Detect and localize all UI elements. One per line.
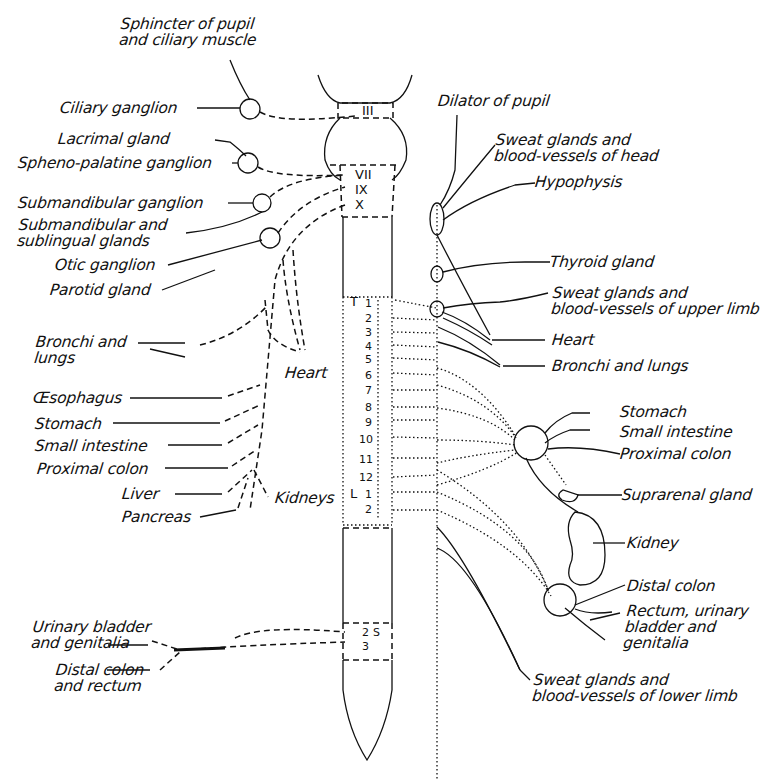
thoracic-segment-5: 5 bbox=[365, 354, 372, 365]
label-lacrimal-gland: Lacrimal gland bbox=[57, 131, 170, 147]
label-ciliary-ganglion: Ciliary ganglion bbox=[59, 100, 178, 116]
label-kidney: Kidney bbox=[626, 535, 679, 551]
label-sweat-glands-head: Sweat glands and blood-vessels of head bbox=[493, 132, 661, 164]
label-distal-colon-symp: Distal colon bbox=[626, 578, 716, 594]
lumbar-label: L bbox=[350, 488, 357, 499]
suprarenal-gland-shape bbox=[559, 490, 578, 502]
label-parotid-gland: Parotid gland bbox=[49, 282, 151, 298]
label-submandibular-glands: Submandibular and sublingual glands bbox=[16, 217, 168, 249]
label-sweat-glands-upper-limb: Sweat glands and blood-vessels of upper … bbox=[550, 285, 762, 317]
thoracic-segment-8: 8 bbox=[365, 402, 372, 413]
lumbar-segment-1: 1 bbox=[365, 489, 372, 500]
label-liver: Liver bbox=[121, 486, 160, 502]
thoracic-segment-6: 6 bbox=[365, 370, 372, 381]
label-proximal-colon-para: Proximal colon bbox=[36, 461, 149, 477]
label-small-intestine-symp: Small intestine bbox=[619, 424, 733, 440]
kidney-shape bbox=[568, 512, 605, 585]
sacral-label: S bbox=[373, 627, 380, 638]
thoracic-segment-7: 7 bbox=[365, 385, 372, 396]
ciliary-ganglion-node bbox=[240, 99, 260, 119]
label-small-intestine-para: Small intestine bbox=[34, 438, 148, 454]
sacral-segment-2: 2 bbox=[362, 627, 369, 638]
thoracic-segment-4: 4 bbox=[365, 341, 372, 352]
cranial-nerve-ix: IX bbox=[355, 184, 368, 195]
thoracic-segment-1: 1 bbox=[365, 298, 372, 309]
label-sweat-glands-lower-limb: Sweat glands and blood-vessels of lower … bbox=[531, 672, 740, 704]
thoracic-segment-9: 9 bbox=[365, 417, 372, 428]
otic-ganglion-node bbox=[260, 228, 280, 248]
coeliac-ganglion bbox=[514, 426, 548, 460]
cranial-nerve-vii: VII bbox=[355, 169, 372, 180]
autonomic-nervous-system-diagram: III VII IX X T 1 2 3 4 5 6 7 8 9 10 11 1… bbox=[0, 0, 783, 780]
label-otic-ganglion: Otic ganglion bbox=[54, 257, 156, 273]
inferior-mesenteric-ganglion bbox=[544, 584, 576, 616]
cranial-nerve-x: X bbox=[355, 199, 364, 210]
cranial-nerve-iii: III bbox=[362, 105, 374, 116]
lumbar-segment-2: 2 bbox=[365, 504, 372, 515]
submandibular-ganglion-node bbox=[253, 194, 271, 212]
label-urinary-bladder-genitalia: Urinary bladder and genitalia bbox=[30, 619, 151, 651]
label-pancreas: Pancreas bbox=[121, 509, 192, 525]
thoracic-segment-2: 2 bbox=[365, 313, 372, 324]
thoracic-segment-12: 12 bbox=[359, 472, 373, 483]
label-sphincter-of-pupil: Sphincter of pupil and ciliary muscle bbox=[118, 16, 259, 48]
label-thyroid-gland: Thyroid gland bbox=[549, 254, 655, 270]
label-stomach-symp: Stomach bbox=[619, 404, 688, 420]
label-bronchi-and-lungs-para: Bronchi and lungs bbox=[33, 334, 127, 366]
label-oesophagus: Œsophagus bbox=[32, 390, 123, 406]
label-spheno-palatine-ganglion: Spheno-palatine ganglion bbox=[17, 155, 213, 171]
sacral-segment-3: 3 bbox=[362, 641, 369, 652]
label-proximal-colon-symp: Proximal colon bbox=[619, 446, 732, 462]
label-suprarenal-gland: Suprarenal gland bbox=[621, 487, 753, 503]
spheno-palatine-ganglion-node bbox=[238, 153, 258, 173]
label-kidneys: Kidneys bbox=[274, 490, 335, 506]
label-heart-symp: Heart bbox=[551, 332, 595, 348]
label-heart-para: Heart bbox=[284, 365, 328, 381]
label-rectum-bladder-genitalia: Rectum, urinary bladder and genitalia bbox=[622, 603, 749, 651]
label-stomach-para: Stomach bbox=[34, 416, 103, 432]
thoracic-label: T bbox=[350, 296, 358, 307]
label-bronchi-and-lungs-symp: Bronchi and lungs bbox=[551, 358, 689, 374]
thoracic-segment-10: 10 bbox=[359, 434, 373, 445]
thoracic-segment-3: 3 bbox=[365, 327, 372, 338]
label-hypophysis: Hypophysis bbox=[534, 174, 623, 190]
label-submandibular-ganglion: Submandibular ganglion bbox=[17, 195, 204, 211]
label-distal-colon-rectum: Distal colon and rectum bbox=[53, 662, 145, 694]
label-dilator-of-pupil: Dilator of pupil bbox=[437, 93, 550, 109]
thoracic-segment-11: 11 bbox=[359, 454, 373, 465]
